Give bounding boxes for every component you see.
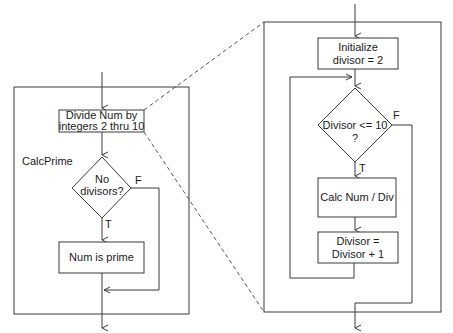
loop-true-label: T	[359, 162, 366, 174]
right-panel-detail: Initialize divisor = 2 Divisor <= 10 ? F…	[264, 4, 441, 328]
decision-line1: No	[95, 173, 109, 185]
init-line1: Initialize	[338, 41, 378, 53]
zoom-connector-top	[144, 22, 264, 110]
num-is-prime-box: Num is prime	[59, 242, 144, 273]
increment-line2: Divisor + 1	[332, 248, 384, 260]
no-divisors-decision: No divisors?	[72, 157, 131, 218]
divide-num-box: Divide Num by integers 2 thru 10	[59, 109, 145, 132]
divisor-le-10-decision: Divisor <= 10 ?	[318, 88, 392, 162]
increment-line1: Divisor =	[336, 235, 379, 247]
initialize-divisor-box: Initialize divisor = 2	[318, 38, 398, 69]
decision-line2: divisors?	[80, 185, 123, 197]
zoom-connector-lines	[144, 22, 264, 312]
loop-false-label: F	[393, 109, 400, 121]
divide-num-line2: integers 2 thru 10	[59, 120, 145, 132]
loop-decision-line2: ?	[352, 132, 358, 144]
divisor-increment-box: Divisor = Divisor + 1	[318, 232, 398, 263]
false-label: F	[135, 174, 142, 186]
flowchart-diagram: Divide Num by integers 2 thru 10 CalcPri…	[0, 0, 453, 333]
zoom-connector-bottom	[144, 132, 264, 312]
calcprime-label: CalcPrime	[22, 155, 73, 167]
true-label: T	[105, 218, 112, 230]
calc-num-div-box: Calc Num / Div	[318, 178, 396, 217]
loop-exit-line	[355, 125, 412, 328]
init-line2: divisor = 2	[333, 54, 383, 66]
loop-decision-line1: Divisor <= 10	[323, 119, 388, 131]
num-is-prime-text: Num is prime	[69, 251, 134, 263]
left-panel-calcprime: Divide Num by integers 2 thru 10 CalcPri…	[14, 72, 189, 328]
calc-num-div-text: Calc Num / Div	[320, 191, 394, 203]
